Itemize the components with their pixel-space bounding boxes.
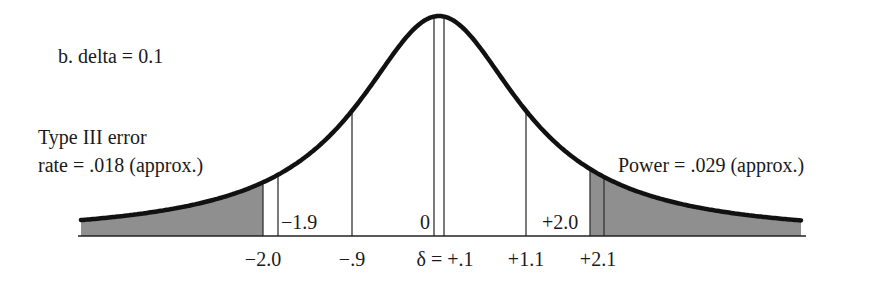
power-label: Power = .029 (approx.) <box>618 154 804 177</box>
power-diagram: b. delta = 0.1 Type III error rate = .01… <box>0 0 873 281</box>
type-iii-error-rate-label: rate = .018 (approx.) <box>38 154 203 177</box>
type-iii-error-label: Type III error <box>38 126 147 149</box>
label-plus-2-0: +2.0 <box>542 211 578 233</box>
reference-lines <box>263 19 604 236</box>
distribution-curve <box>81 16 801 220</box>
panel-label: b. delta = 0.1 <box>58 45 163 67</box>
label-minus-1-9: −1.9 <box>281 211 317 233</box>
tick-delta: δ = +.1 <box>417 248 474 270</box>
tick-minus-0-9: −.9 <box>339 248 365 270</box>
power-region <box>590 169 801 236</box>
label-zero: 0 <box>420 211 430 233</box>
tick-minus-2-0: −2.0 <box>245 248 281 270</box>
tick-plus-1-1: +1.1 <box>508 248 544 270</box>
tick-plus-2-1: +2.1 <box>580 248 616 270</box>
